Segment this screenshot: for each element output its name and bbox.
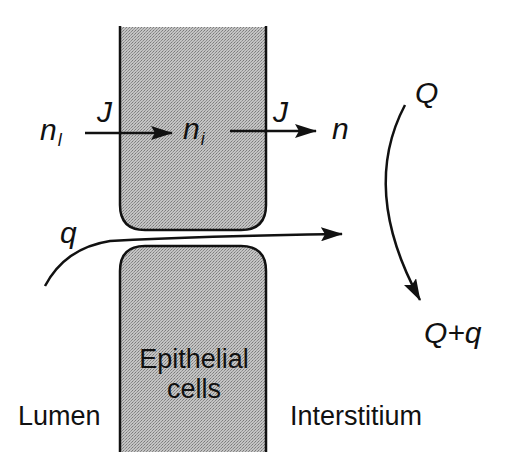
- diagram-canvas: nl J ni J n Q q Q+q Lumen Epithelial cel…: [0, 0, 507, 471]
- cell-concentration-label: ni: [183, 114, 205, 148]
- lumen-concentration-label: nl: [40, 115, 62, 149]
- flux-out-label: J: [273, 97, 288, 127]
- epithelial-cells-label-line2: cells: [126, 374, 262, 404]
- interstitial-concentration-label: n: [332, 114, 349, 144]
- interstitium-label: Interstitium: [290, 403, 422, 430]
- epithelial-cells-label-line1: Epithelial: [126, 344, 262, 374]
- paracellular-flow-label: q: [60, 218, 77, 248]
- lumen-label: Lumen: [18, 403, 101, 430]
- epithelial-cells-label: Epithelial cells: [126, 344, 262, 404]
- interstitial-flow-arrow: [386, 105, 420, 300]
- interstitial-flow-in-label: Q: [415, 78, 438, 108]
- interstitial-flow-out-label: Q+q: [424, 318, 482, 348]
- flux-in-label: J: [97, 97, 112, 127]
